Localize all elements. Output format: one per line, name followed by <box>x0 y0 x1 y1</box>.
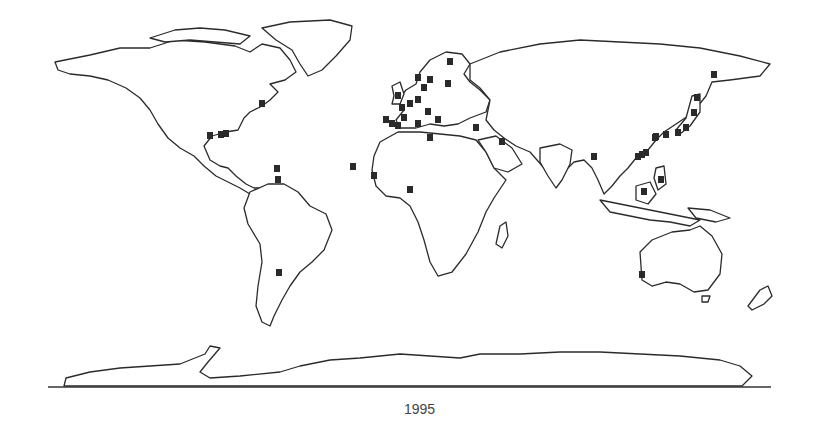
antarctica-outline <box>64 346 752 386</box>
site-marker <box>275 176 281 183</box>
site-marker <box>415 96 421 103</box>
site-marker <box>415 74 421 81</box>
site-marker <box>259 100 265 107</box>
tasmania-outline <box>702 296 710 302</box>
site-marker <box>658 176 664 183</box>
site-marker <box>639 271 645 278</box>
asia-outline <box>470 40 770 194</box>
site-marker <box>395 122 401 129</box>
site-marker <box>691 109 697 116</box>
world-map <box>0 0 839 435</box>
australia-outline <box>640 226 722 292</box>
site-marker <box>675 129 681 136</box>
site-marker <box>445 80 451 87</box>
site-marker <box>407 186 413 193</box>
site-marker <box>591 153 597 160</box>
india-outline <box>540 144 572 188</box>
site-marker <box>425 108 431 115</box>
site-marker <box>274 165 280 172</box>
site-marker <box>499 138 505 145</box>
site-marker <box>663 131 669 138</box>
map-caption-year: 1995 <box>0 401 839 417</box>
site-marker <box>415 120 421 127</box>
site-marker <box>371 172 377 179</box>
site-marker <box>401 114 407 121</box>
site-marker <box>207 132 213 139</box>
site-marker <box>643 149 649 156</box>
site-marker <box>435 116 441 123</box>
site-marker <box>350 163 356 170</box>
africa-outline <box>372 132 506 276</box>
site-marker <box>389 120 395 127</box>
site-marker <box>473 124 479 131</box>
north-america-outline <box>55 40 296 194</box>
site-marker <box>276 269 282 276</box>
site-marker <box>383 116 389 123</box>
site-marker <box>421 84 427 91</box>
madagascar-outline <box>496 222 508 248</box>
indonesia-outline <box>600 200 700 226</box>
site-marker <box>683 124 689 131</box>
site-marker <box>427 76 433 83</box>
site-marker <box>427 134 433 141</box>
new-zealand-outline <box>748 286 772 310</box>
site-marker <box>652 134 658 141</box>
site-marker <box>395 92 401 99</box>
site-marker <box>223 130 229 137</box>
site-marker <box>641 188 647 195</box>
site-marker <box>635 153 641 160</box>
site-marker <box>711 71 717 78</box>
site-marker <box>694 94 700 101</box>
south-america-outline <box>244 184 332 326</box>
site-marker <box>399 104 405 111</box>
site-marker <box>447 58 453 65</box>
site-marker <box>407 100 413 107</box>
